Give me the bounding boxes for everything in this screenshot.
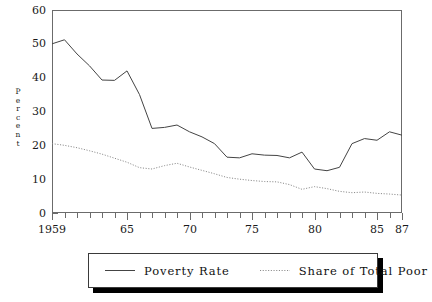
legend-dotted-line-icon (260, 266, 290, 275)
x-tick-mark-minor (77, 213, 78, 218)
x-tick-mark-minor (65, 213, 66, 218)
y-tick-label: 30 (20, 106, 46, 117)
legend-item[interactable]: Poverty Rate (105, 265, 230, 277)
x-tick-mark-minor (115, 213, 116, 218)
x-tick-mark-minor (177, 213, 178, 218)
legend-entries: Poverty RateShare of Total Poor (89, 254, 377, 287)
x-tick-mark-minor (352, 213, 353, 218)
data-series-layer (52, 10, 402, 213)
x-tick-label: 70 (183, 224, 197, 235)
x-tick-label: 80 (308, 224, 322, 235)
y-tick-label: 40 (20, 72, 46, 83)
x-tick-mark-minor (202, 213, 203, 218)
y-tick-mark (53, 213, 58, 214)
x-tick-mark-minor (215, 213, 216, 218)
y-tick-label: 60 (20, 5, 46, 16)
x-tick-mark-minor (240, 213, 241, 218)
x-tick-mark-minor (327, 213, 328, 218)
legend-label: Poverty Rate (144, 265, 230, 277)
x-tick-label: 87 (395, 224, 409, 235)
x-tick-mark-minor (277, 213, 278, 218)
x-tick-mark-major (377, 213, 378, 220)
x-tick-mark-major (190, 213, 191, 220)
x-tick-mark-minor (365, 213, 366, 218)
legend-item[interactable]: Share of Total Poor (260, 265, 428, 277)
x-tick-mark-minor (340, 213, 341, 218)
y-tick-label: 0 (20, 208, 46, 219)
x-tick-mark-minor (152, 213, 153, 218)
x-tick-mark-major (402, 213, 403, 220)
chart-container: Percent 0102030405060 1959657075808587 P… (0, 0, 432, 302)
x-tick-label: 85 (370, 224, 384, 235)
series-line-2 (52, 144, 402, 195)
y-tick-label: 50 (20, 38, 46, 49)
x-tick-mark-major (252, 213, 253, 220)
x-tick-mark-major (127, 213, 128, 220)
y-tick-label: 20 (20, 140, 46, 151)
x-tick-mark-minor (140, 213, 141, 218)
x-tick-mark-minor (302, 213, 303, 218)
series-line-1 (52, 40, 402, 171)
x-tick-mark-major (315, 213, 316, 220)
legend-label: Share of Total Poor (299, 265, 428, 277)
x-tick-label: 1959 (38, 224, 66, 235)
legend-box: Poverty RateShare of Total Poor (88, 253, 378, 288)
legend-solid-line-icon (105, 266, 135, 275)
x-tick-mark-minor (90, 213, 91, 218)
x-tick-mark-minor (390, 213, 391, 218)
y-tick-label: 10 (20, 174, 46, 185)
x-tick-mark-minor (227, 213, 228, 218)
x-tick-mark-minor (165, 213, 166, 218)
x-tick-mark-minor (290, 213, 291, 218)
x-tick-mark-minor (265, 213, 266, 218)
x-tick-mark-major (52, 213, 53, 220)
x-tick-label: 75 (245, 224, 259, 235)
x-tick-label: 65 (120, 224, 134, 235)
x-tick-mark-minor (102, 213, 103, 218)
